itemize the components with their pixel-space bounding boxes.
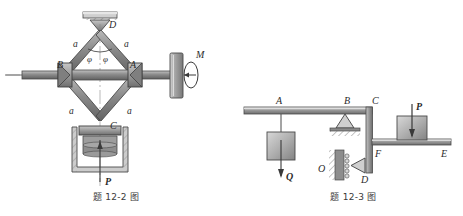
figure-page: D B A C a a a a φ φ M P 题 12-2 图 (0, 0, 463, 216)
label-point-c: C (372, 95, 379, 106)
roller-dots (345, 154, 349, 178)
handwheel-disk (170, 53, 183, 98)
toggle-press-diagram: D B A C a a a a φ φ M P (0, 0, 232, 190)
label-bar-lower-left: a (69, 106, 74, 116)
label-load-p: P (416, 101, 423, 112)
label-point-f: F (374, 148, 382, 159)
pin-support-b (330, 114, 360, 136)
label-point-a: A (275, 95, 283, 106)
label-angle-left: φ (87, 54, 92, 64)
label-load-q: Q (286, 171, 293, 182)
figure-toggle-press: D B A C a a a a φ φ M P 题 12-2 图 (0, 0, 232, 216)
pin-support-d (329, 150, 365, 180)
label-force-p: P (105, 176, 112, 187)
label-joint-a: A (129, 59, 137, 70)
horizontal-shaft (5, 70, 172, 80)
press-assembly (72, 126, 128, 182)
block-load-p (397, 104, 427, 140)
figure-caption-left: 题 12-2 图 (0, 190, 232, 203)
label-joint-d: D (108, 19, 117, 30)
vertical-member-cdf (366, 107, 373, 173)
label-bar-upper-right: a (124, 39, 129, 49)
torque-arrow-m (184, 62, 198, 88)
label-point-b: B (344, 95, 350, 106)
bent-beam-diagram: A B C D E F O Q P (232, 0, 463, 190)
horizontal-beam-abc (244, 107, 372, 114)
label-point-e: E (440, 148, 447, 159)
label-point-o: O (318, 163, 325, 174)
hanging-load-q (267, 114, 295, 178)
label-torque-m: M (195, 49, 205, 60)
label-bar-lower-right: a (127, 106, 132, 116)
label-bar-upper-left: a (73, 39, 78, 49)
figure-bent-beam: A B C D E F O Q P 题 12-3 图 (232, 0, 463, 216)
label-joint-c: C (110, 120, 117, 131)
label-point-d: D (360, 174, 369, 185)
label-joint-b: B (57, 59, 63, 70)
label-angle-right: φ (103, 54, 108, 64)
figure-caption-right: 题 12-3 图 (238, 190, 463, 203)
